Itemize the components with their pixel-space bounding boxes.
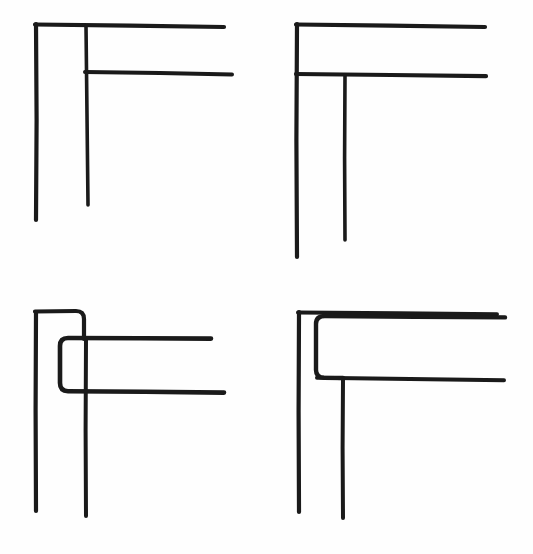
figure-sheet: [0, 0, 533, 554]
sheet-background: [0, 0, 533, 554]
figure2-outer-horizontal: [296, 25, 485, 28]
figure1-inner-vertical: [86, 26, 88, 205]
corner-joint-diagram-canvas: [0, 0, 533, 554]
figure2-outer-vertical: [296, 24, 297, 257]
figure1-inner-horizontal: [85, 72, 232, 74]
figure1-outer-horizontal: [35, 25, 224, 28]
figure2-inner-horizontal: [296, 74, 486, 76]
figure4-inner-horizontal: [317, 378, 504, 380]
figure1-outer-vertical: [36, 24, 37, 220]
